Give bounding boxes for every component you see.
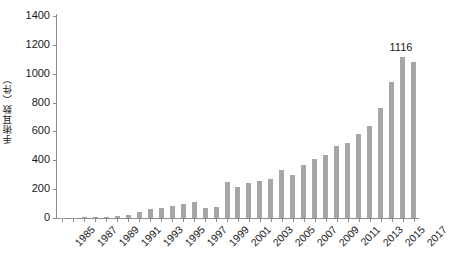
bar-column[interactable]: [189, 16, 200, 218]
x-tick-label: 1993: [161, 224, 185, 248]
y-tick-mark: [53, 218, 57, 219]
bar[interactable]: [268, 179, 273, 218]
bar-column[interactable]: [200, 16, 211, 218]
y-axis-tick: 0: [0, 218, 57, 219]
y-tick-label: 1400: [26, 9, 50, 22]
bar[interactable]: [104, 217, 109, 218]
bar[interactable]: [181, 204, 186, 218]
bar-column[interactable]: [178, 16, 189, 218]
x-tick-label: 1999: [227, 224, 251, 248]
bar-column[interactable]: [233, 16, 244, 218]
bar[interactable]: [290, 175, 295, 218]
bar-column[interactable]: [364, 16, 375, 218]
bar[interactable]: [312, 159, 317, 218]
x-tick-mark: [359, 219, 360, 222]
bar[interactable]: [214, 207, 219, 218]
x-tick-label: 2011: [358, 224, 382, 248]
x-tick-mark: [392, 219, 393, 222]
x-tick-mark: [403, 219, 404, 222]
x-tick-mark: [326, 219, 327, 222]
bar[interactable]: [257, 181, 262, 218]
bar-column[interactable]: [101, 16, 112, 218]
bar[interactable]: [192, 202, 197, 218]
bar[interactable]: [400, 57, 405, 218]
x-tick-label: 2015: [402, 224, 426, 248]
bar[interactable]: [93, 217, 98, 218]
bar-column[interactable]: [320, 16, 331, 218]
bar-column[interactable]: [68, 16, 79, 218]
bar[interactable]: [345, 143, 350, 218]
bar-column[interactable]: [309, 16, 320, 218]
bar[interactable]: [126, 215, 131, 218]
x-tick-mark: [150, 219, 151, 222]
bar[interactable]: [203, 208, 208, 218]
bar-column[interactable]: [79, 16, 90, 218]
bar[interactable]: [115, 216, 120, 218]
bar[interactable]: [411, 62, 416, 218]
x-tick-mark: [370, 219, 371, 222]
y-tick-label: 200: [32, 182, 50, 195]
x-tick-mark: [95, 219, 96, 222]
bar-column[interactable]: [90, 16, 101, 218]
bar-column[interactable]: [298, 16, 309, 218]
bar[interactable]: [389, 82, 394, 218]
bar-column[interactable]: [211, 16, 222, 218]
bar-column[interactable]: [243, 16, 254, 218]
x-tick-mark: [348, 219, 349, 222]
y-axis-title: 手術耳数（件）: [0, 0, 16, 218]
y-axis-tick: 800: [0, 103, 57, 104]
x-tick-label: 2007: [315, 224, 339, 248]
x-tick-mark: [84, 219, 85, 222]
bar-column[interactable]: [134, 16, 145, 218]
bar-column[interactable]: [145, 16, 156, 218]
y-tick-label: 600: [32, 124, 50, 137]
x-tick-mark: [293, 219, 294, 222]
bar[interactable]: [82, 217, 87, 218]
bar-column[interactable]: [156, 16, 167, 218]
bar[interactable]: [334, 146, 339, 218]
x-tick-mark: [227, 219, 228, 222]
bar-column[interactable]: [265, 16, 276, 218]
bar[interactable]: [137, 212, 142, 218]
bar[interactable]: [159, 208, 164, 218]
x-tick-mark: [161, 219, 162, 222]
x-tick-mark: [194, 219, 195, 222]
bar[interactable]: [356, 134, 361, 218]
bar[interactable]: [378, 108, 383, 218]
bar[interactable]: [148, 209, 153, 218]
bar[interactable]: [323, 155, 328, 218]
x-tick-label: 1991: [139, 224, 163, 248]
x-tick-mark: [414, 219, 415, 222]
bar-column[interactable]: [254, 16, 265, 218]
bar-column[interactable]: [287, 16, 298, 218]
bar[interactable]: [301, 165, 306, 218]
bar-column[interactable]: [123, 16, 134, 218]
x-tick-label: 2001: [249, 224, 273, 248]
bar[interactable]: [279, 170, 284, 218]
bar[interactable]: [367, 126, 372, 218]
bar[interactable]: [235, 187, 240, 218]
y-axis-tick: 600: [0, 131, 57, 132]
bar-column[interactable]: [112, 16, 123, 218]
x-tick-mark: [381, 219, 382, 222]
bar[interactable]: [225, 182, 230, 218]
x-tick-mark: [106, 219, 107, 222]
bar-column[interactable]: [167, 16, 178, 218]
bar-column[interactable]: [57, 16, 68, 218]
bar-column[interactable]: [331, 16, 342, 218]
bar-column[interactable]: [222, 16, 233, 218]
bar-column[interactable]: [375, 16, 386, 218]
bar-column[interactable]: [276, 16, 287, 218]
y-axis-tick: 1200: [0, 45, 57, 46]
bar[interactable]: [246, 183, 251, 218]
y-tick-label: 1200: [26, 38, 50, 51]
bar-column[interactable]: [353, 16, 364, 218]
bar[interactable]: [170, 206, 175, 218]
bar-column[interactable]: [342, 16, 353, 218]
x-tick-label: 1985: [73, 224, 97, 248]
x-tick-mark: [315, 219, 316, 222]
x-tick-mark: [249, 219, 250, 222]
x-tick-mark: [139, 219, 140, 222]
x-tick-mark: [205, 219, 206, 222]
